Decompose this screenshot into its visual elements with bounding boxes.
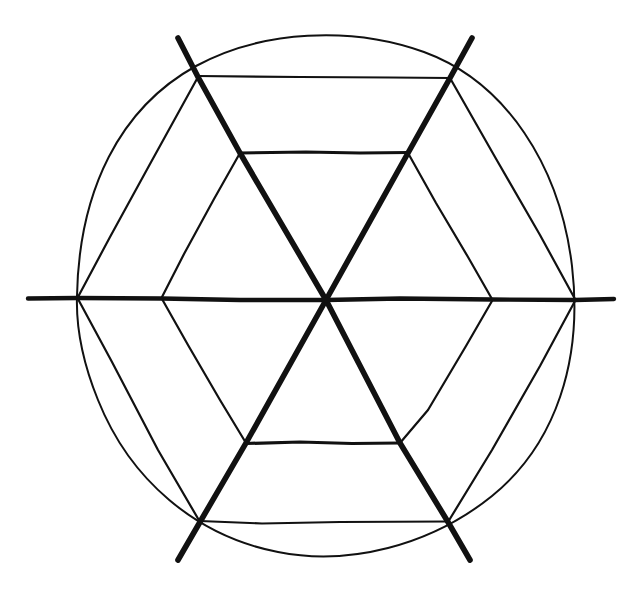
horizontal-diameter-line (28, 298, 614, 300)
hexagram-figure: Hand drawn circle with an inscribed regu… (0, 0, 642, 596)
inner-hexagon-side-top (240, 152, 408, 153)
inner-hexagon-side-bottom (246, 442, 400, 444)
drawing-canvas: Hand drawn circle with an inscribed regu… (0, 0, 642, 596)
horizontal-line-group (28, 298, 614, 300)
